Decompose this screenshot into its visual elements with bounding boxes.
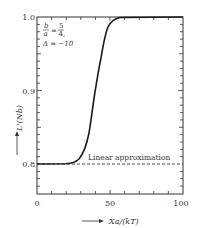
param-delta: Δ = −10 — [42, 40, 74, 48]
param-a: a — [44, 30, 48, 38]
x-axis-label: Xa/(kT) — [108, 217, 139, 226]
x-tick-label-0: 0 — [34, 199, 39, 208]
y-tick-label-1.0: 1.0 — [22, 13, 35, 22]
param-5: 5 — [59, 22, 63, 30]
y-axis-label: L'(Nb) — [15, 105, 24, 132]
x-tick-label-50: 50 — [105, 199, 115, 208]
x-axis-arrow-icon — [82, 219, 104, 223]
y-tick-label-0.8: 0.8 — [22, 160, 35, 169]
y-tick-label-0.9: 0.9 — [22, 87, 35, 96]
param-eq: = — [51, 27, 57, 35]
param-b: b — [44, 22, 49, 30]
parameter-block: b a = 5 4, Δ = −10 — [42, 22, 74, 48]
y-axis-arrow-icon — [15, 131, 19, 155]
param-4: 4, — [59, 30, 66, 38]
linear-approximation-label: Linear approximation — [88, 153, 170, 162]
x-tick-label-100: 100 — [173, 199, 188, 208]
chart: 1.0 0.9 0.8 0 50 100 Linear approximatio… — [0, 0, 200, 228]
